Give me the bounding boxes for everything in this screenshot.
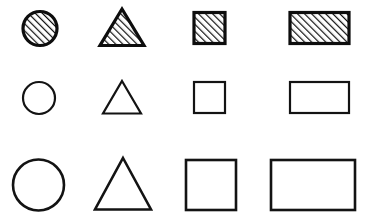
square-large-outline-shape [186,160,236,210]
shape-canvas [0,0,369,223]
rectangle-small-hatched-shape [290,13,349,44]
circle-small-hatched-shape [23,12,57,46]
square-small-hatched-shape [194,13,225,44]
triangle-large-outline-shape [95,158,151,210]
triangle-small-hatched-shape [100,9,144,46]
square-medium-outline-shape [194,82,225,113]
shape-layer [13,9,355,211]
triangle-medium-outline-shape [103,81,141,114]
rectangle-medium-outline-shape [290,82,349,113]
circle-medium-outline-shape [23,82,55,114]
shape-grid-figure [0,0,369,223]
circle-large-outline-shape [13,160,64,211]
rectangle-large-outline-shape [271,160,355,210]
